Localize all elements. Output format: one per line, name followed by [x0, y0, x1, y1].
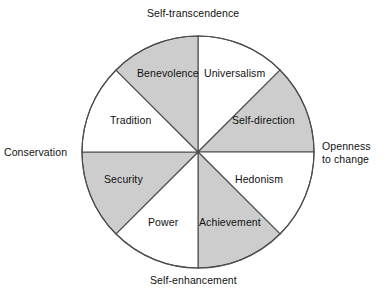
sector-label-achievement: Achievement — [199, 216, 261, 228]
sector-label-tradition: Tradition — [110, 114, 151, 126]
sector-label-benevolence: Benevolence — [137, 67, 199, 79]
sector-label-self-direction: Self-direction — [232, 114, 295, 126]
sector-label-hedonism: Hedonism — [235, 173, 283, 185]
sector-label-universalism: Universalism — [204, 67, 265, 79]
sector-label-power: Power — [148, 216, 178, 228]
values-circumplex-diagram: Self-transcendence Self-enhancement Cons… — [0, 0, 388, 294]
axis-label-conservation: Conservation — [4, 146, 67, 159]
axis-label-openness-to-change: Openness to change — [322, 140, 371, 165]
sector-label-security: Security — [104, 173, 143, 185]
axis-label-self-enhancement: Self-enhancement — [150, 274, 237, 287]
axis-label-self-transcendence: Self-transcendence — [147, 7, 239, 20]
